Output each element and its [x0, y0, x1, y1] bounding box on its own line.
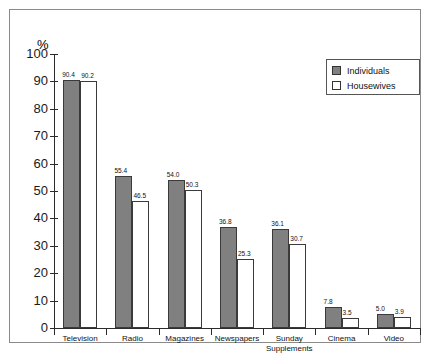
- y-tick-label-text: 10: [20, 294, 48, 307]
- y-tick-label-60: 60: [16, 157, 48, 170]
- x-category-label-4: Sunday Supplements: [263, 334, 315, 353]
- y-tick-label-50: 50: [16, 184, 48, 197]
- bar-value-label: 54.0: [167, 171, 180, 178]
- bar-value-label: 50.3: [186, 181, 199, 188]
- chart-legend: IndividualsHousewives: [326, 59, 420, 95]
- legend-item-housewives: Housewives: [332, 79, 414, 92]
- y-tick-label-20: 20: [16, 266, 48, 279]
- legend-item-individuals: Individuals: [332, 64, 414, 77]
- bar-individuals-3: [220, 227, 237, 328]
- bar-housewives-4: [289, 244, 306, 328]
- y-tick-label-text: 40: [20, 211, 48, 224]
- x-category-label-3: Newspapers: [211, 334, 263, 344]
- x-category-label-5: Cinema: [315, 334, 367, 344]
- bar-value-label: 25.3: [238, 250, 251, 257]
- y-tick-label-70: 70: [16, 129, 48, 142]
- y-tick-label-text: 0: [20, 321, 48, 334]
- y-tick-label-40: 40: [16, 211, 48, 224]
- bar-housewives-6: [394, 317, 411, 328]
- bar-value-label: 7.8: [324, 298, 333, 305]
- bar-housewives-5: [342, 318, 359, 328]
- bar-value-label: 3.5: [343, 309, 352, 316]
- legend-swatch-icon: [332, 66, 341, 75]
- plot-area: 90.490.255.446.554.050.336.825.336.130.7…: [54, 54, 420, 328]
- y-tick-label-text: 80: [20, 102, 48, 115]
- bar-value-label: 90.2: [81, 72, 94, 79]
- y-tick-label-text: 20: [20, 266, 48, 279]
- x-tick-end: [420, 328, 421, 335]
- y-tick-label-30: 30: [16, 239, 48, 252]
- y-tick-label-80: 80: [16, 102, 48, 115]
- bar-individuals-1: [115, 176, 132, 328]
- legend-item-label: Individuals: [347, 66, 390, 76]
- bar-individuals-6: [377, 314, 394, 328]
- bar-value-label: 90.4: [62, 71, 75, 78]
- bar-value-label: 36.1: [271, 220, 284, 227]
- x-category-label-0: Television: [54, 334, 106, 344]
- y-tick-label-90: 90: [16, 74, 48, 87]
- bar-housewives-0: [80, 81, 97, 328]
- x-category-label-1: Radio: [106, 334, 158, 344]
- bar-housewives-3: [237, 259, 254, 328]
- bar-individuals-0: [63, 80, 80, 328]
- bar-individuals-2: [168, 180, 185, 328]
- bar-value-label: 55.4: [114, 167, 127, 174]
- bar-individuals-5: [325, 307, 342, 328]
- y-tick-label-text: 70: [20, 129, 48, 142]
- bar-individuals-4: [272, 229, 289, 328]
- x-category-label-6: Video: [368, 334, 420, 344]
- bar-value-label: 30.7: [290, 235, 303, 242]
- legend-swatch-icon: [332, 81, 341, 90]
- y-tick-label-text: 30: [20, 239, 48, 252]
- legend-item-label: Housewives: [347, 81, 396, 91]
- y-tick-label-100: 100: [16, 47, 48, 60]
- y-tick-label-text: 50: [20, 184, 48, 197]
- y-tick-label-text: 90: [20, 74, 48, 87]
- bar-value-label: 3.9: [395, 308, 404, 315]
- y-tick-label-text: 60: [20, 157, 48, 170]
- y-tick-label-10: 10: [16, 294, 48, 307]
- chart-frame: % 0102030405060708090100 90.490.255.446.…: [9, 9, 421, 343]
- bar-housewives-1: [132, 201, 149, 328]
- y-tick-label-text: 100: [20, 47, 48, 60]
- x-axis-line: [54, 328, 420, 329]
- x-category-label-2: Magazines: [159, 334, 211, 344]
- bar-value-label: 5.0: [376, 305, 385, 312]
- bar-housewives-2: [185, 190, 202, 328]
- bar-value-label: 46.5: [133, 192, 146, 199]
- bar-value-label: 36.8: [219, 218, 232, 225]
- y-tick-label-0: 0: [16, 321, 48, 334]
